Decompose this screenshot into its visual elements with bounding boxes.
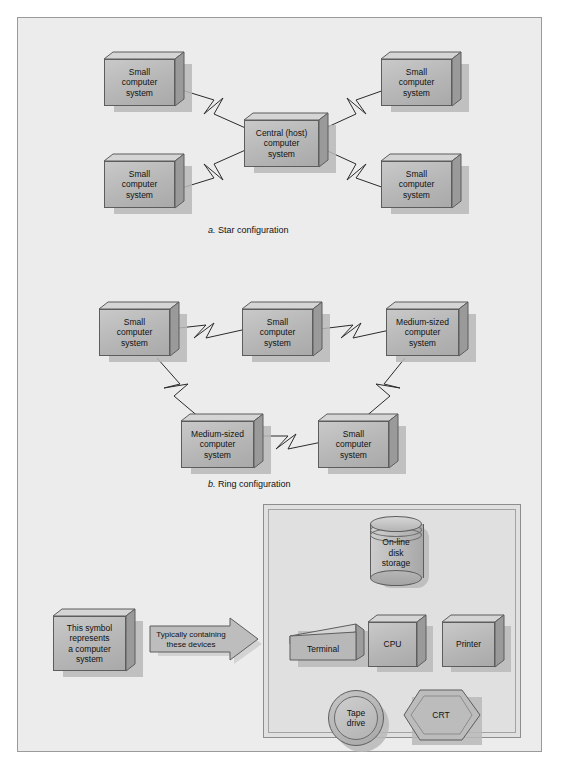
node-ring-br: Smallcomputersystem — [318, 414, 398, 468]
device-label: CRT — [404, 710, 478, 721]
device-label: Tapedrive — [347, 708, 365, 728]
device-label: Printer — [454, 639, 483, 650]
legend-symbol-box: This symbolrepresentsa computersystem — [53, 609, 135, 671]
device-printer: Printer — [442, 615, 504, 667]
legend-arrow-label: Typically containingthese devices — [148, 618, 234, 662]
node-star-tr: Smallcomputersystem — [381, 52, 461, 106]
node-label: Smallcomputersystem — [334, 429, 373, 461]
cylinder-top — [370, 516, 422, 532]
caption-text: Ring configuration — [218, 479, 291, 489]
caption-star: a. Star configuration — [208, 225, 289, 235]
node-label: Medium-sizedcomputersystem — [189, 429, 246, 461]
figure-page: Smallcomputersystem Smallcomputersystem … — [0, 0, 561, 771]
device-label: CPU — [382, 639, 404, 650]
node-label: Smallcomputersystem — [397, 67, 436, 99]
node-star-br: Smallcomputersystem — [381, 154, 461, 208]
node-label: Medium-sizedcomputersystem — [394, 317, 451, 349]
node-ring-tr: Medium-sizedcomputersystem — [386, 302, 468, 356]
node-ring-tc: Smallcomputersystem — [242, 302, 322, 356]
device-disk-storage: On-linediskstorage — [370, 516, 422, 586]
device-terminal: Terminal — [290, 622, 364, 666]
node-ring-tl: Smallcomputersystem — [99, 302, 179, 356]
node-label: Smallcomputersystem — [120, 67, 159, 99]
caption-ring: b. Ring configuration — [208, 479, 291, 489]
device-crt: CRT — [404, 688, 482, 744]
node-star-bl: Smallcomputersystem — [104, 154, 184, 208]
caption-letter: a. — [208, 225, 216, 235]
legend-symbol-label: This symbolrepresentsa computersystem — [65, 623, 114, 665]
node-label: Smallcomputersystem — [115, 317, 154, 349]
caption-text: Star configuration — [218, 225, 289, 235]
cylinder-bottom — [370, 570, 422, 586]
node-label: Smallcomputersystem — [258, 317, 297, 349]
device-label: Terminal — [290, 644, 356, 655]
node-star-tl: Smallcomputersystem — [104, 52, 184, 106]
device-label: On-linediskstorage — [370, 537, 422, 569]
figure-stage: Smallcomputersystem Smallcomputersystem … — [18, 18, 543, 753]
legend-arrow: Typically containingthese devices — [148, 618, 260, 662]
device-cpu: CPU — [368, 615, 426, 667]
node-label: Central (host)computersystem — [254, 128, 310, 160]
caption-letter: b. — [208, 479, 216, 489]
node-label: Smallcomputersystem — [397, 169, 436, 201]
node-star-center: Central (host)computersystem — [244, 113, 328, 167]
device-tape-drive: Tapedrive — [328, 690, 384, 746]
node-label: Smallcomputersystem — [120, 169, 159, 201]
node-ring-bl: Medium-sizedcomputersystem — [181, 414, 263, 468]
figure-frame: Smallcomputersystem Smallcomputersystem … — [17, 17, 542, 752]
